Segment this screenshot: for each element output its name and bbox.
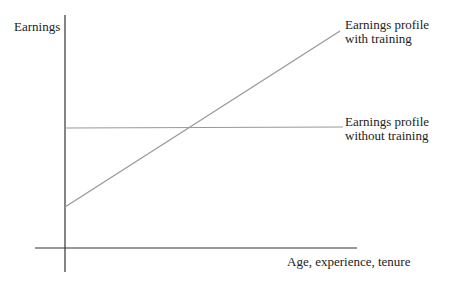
label-with-training: Earnings profile with training bbox=[345, 18, 429, 46]
label-without-training-line1: Earnings profile bbox=[345, 115, 429, 129]
line-with-training bbox=[65, 31, 340, 207]
label-without-training: Earnings profile without training bbox=[345, 115, 429, 143]
label-with-training-line2: with training bbox=[345, 32, 429, 46]
x-axis-label: Age, experience, tenure bbox=[287, 255, 410, 269]
line-without-training bbox=[65, 127, 343, 128]
y-axis-label: Earnings bbox=[14, 20, 60, 34]
label-with-training-line1: Earnings profile bbox=[345, 18, 429, 32]
label-without-training-line2: without training bbox=[345, 129, 429, 143]
